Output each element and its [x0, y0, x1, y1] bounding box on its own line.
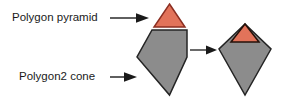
label-polygon-pyramid: Polygon pyramid — [12, 11, 98, 23]
polygon-merge-diagram: Polygon pyramid Polygon2 cone — [0, 0, 283, 97]
label-polygon2-cone: Polygon2 cone — [19, 70, 95, 82]
diagram-canvas: Polygon pyramid Polygon2 cone — [0, 0, 283, 97]
